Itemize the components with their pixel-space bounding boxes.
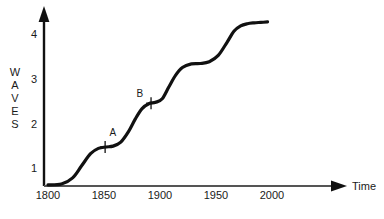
x-tick-label-1950: 1950 — [204, 189, 228, 201]
y-tick-label-3: 3 — [31, 73, 37, 85]
chart-figure: 4 3 2 1 1800 1850 1900 1950 2000 Time W … — [0, 0, 384, 219]
annotation-label-b: B — [137, 88, 144, 99]
y-tick-label-4: 4 — [31, 28, 37, 40]
y-axis-title-letter-s: S — [11, 118, 18, 130]
y-tick-label-1: 1 — [31, 162, 37, 174]
x-tick-label-1900: 1900 — [148, 189, 172, 201]
y-axis-title-letter-e: E — [11, 105, 18, 117]
x-axis-title: Time — [352, 180, 376, 192]
annotation-label-a: A — [110, 127, 117, 138]
y-axis-title-letter-v: V — [11, 92, 19, 104]
y-tick-label-2: 2 — [31, 118, 37, 130]
x-tick-label-1800: 1800 — [36, 189, 60, 201]
y-axis-title-letter-a: A — [11, 79, 19, 91]
x-tick-label-1850: 1850 — [92, 189, 116, 201]
y-axis-title-letter-w: W — [10, 66, 21, 78]
waves-time-line-chart: 4 3 2 1 1800 1850 1900 1950 2000 Time W … — [0, 0, 384, 219]
x-tick-label-2000: 2000 — [260, 189, 284, 201]
